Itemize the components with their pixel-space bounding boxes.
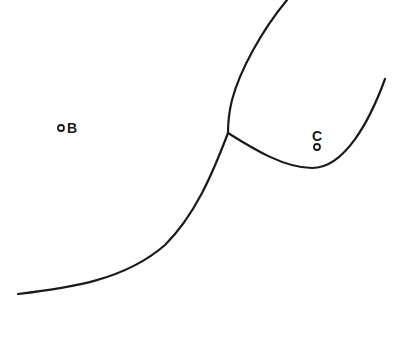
point-b-marker bbox=[58, 125, 64, 131]
point-c-label: C bbox=[312, 128, 322, 144]
diagram-canvas: B C bbox=[0, 0, 411, 356]
upper-boundary-curve bbox=[228, 0, 287, 133]
point-c: C bbox=[312, 128, 322, 150]
point-b: B bbox=[58, 120, 77, 136]
lower-boundary-curve bbox=[18, 133, 228, 294]
point-b-label: B bbox=[67, 120, 77, 136]
right-boundary-curve bbox=[228, 79, 385, 168]
point-c-marker bbox=[314, 144, 320, 150]
